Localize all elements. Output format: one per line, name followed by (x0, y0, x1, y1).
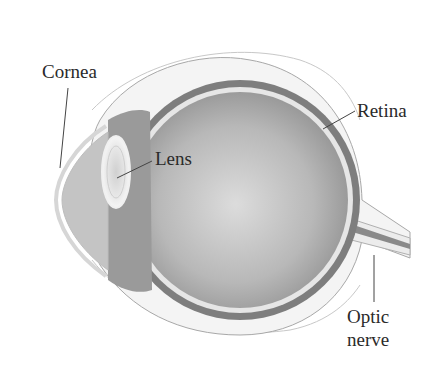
optic-nerve-label-line1: Optic (347, 307, 389, 327)
optic-nerve-label-line2: nerve (347, 330, 389, 350)
lens-label: Lens (155, 149, 192, 169)
cornea-shape (62, 132, 108, 270)
retina-label: Retina (357, 101, 407, 121)
cornea-label: Cornea (42, 62, 97, 82)
cornea-leader (60, 88, 68, 168)
lens-shape (102, 136, 130, 208)
vitreous-body (132, 92, 348, 308)
